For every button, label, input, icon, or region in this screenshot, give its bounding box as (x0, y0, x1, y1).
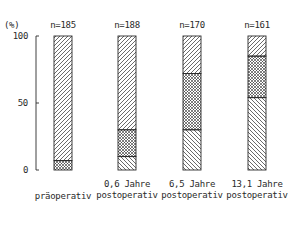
bar-segment-crosshatch (248, 56, 266, 98)
bar-2 (118, 36, 136, 170)
bar-1-label-line2: präoperativ (28, 191, 98, 201)
bar-segment-hatch-down (183, 130, 201, 170)
bar-segment-hatch-down (248, 98, 266, 170)
bar-2-label-line2: postoperativ (92, 190, 162, 200)
bar-4 (248, 36, 266, 170)
bar-2-n-label: n=188 (107, 20, 147, 30)
bar-4-label-line2: postoperativ (222, 190, 290, 200)
y-tick-0: 0 (4, 165, 28, 175)
bars-group (54, 36, 266, 170)
bar-4-label-line1: 13,1 Jahre (222, 179, 290, 189)
bar-segment-hatch-up (248, 36, 266, 56)
bar-2-label-line1: 0,6 Jahre (92, 179, 162, 189)
y-axis (36, 36, 39, 170)
bar-segment-crosshatch (118, 130, 136, 157)
bar-segment-crosshatch (54, 161, 72, 170)
y-axis-unit-label: (%) (4, 20, 19, 30)
y-tick-100: 100 (4, 31, 28, 41)
bar-1-n-label: n=185 (43, 20, 83, 30)
bar-segment-hatch-up (54, 36, 72, 161)
bar-segment-hatch-up (183, 36, 201, 74)
bar-segment-hatch-down (118, 157, 136, 170)
y-tick-50: 50 (4, 98, 28, 108)
bar-segment-hatch-up (118, 36, 136, 130)
bar-3-label-line1: 6,5 Jahre (157, 179, 227, 189)
bar-1 (54, 36, 72, 170)
bar-3 (183, 36, 201, 170)
bar-3-n-label: n=170 (172, 20, 212, 30)
bar-segment-crosshatch (183, 74, 201, 130)
bar-3-label-line2: postoperativ (157, 190, 227, 200)
bar-4-n-label: n=161 (237, 20, 277, 30)
